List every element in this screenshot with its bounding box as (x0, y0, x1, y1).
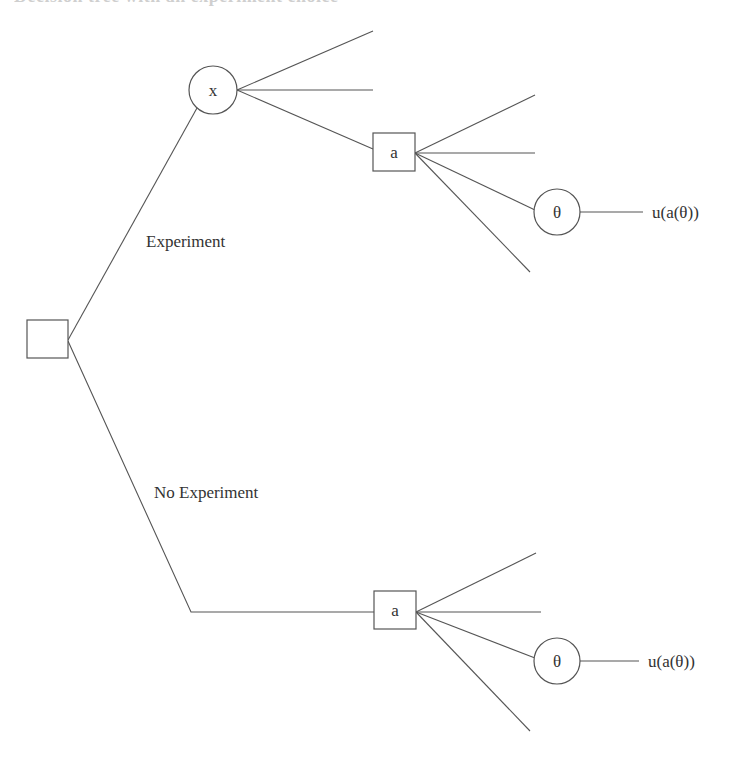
edge-action-top-4 (415, 153, 530, 272)
action-decision-node-experiment-label: a (390, 143, 398, 162)
decision-tree-diagram: x a θ a θ u(a(θ)) u(a(θ)) Experiment No … (0, 0, 733, 760)
edge-action-bottom-4 (416, 612, 530, 731)
utility-label-experiment: u(a(θ)) (652, 203, 699, 222)
edge-observation-outcome-1 (237, 31, 373, 90)
utility-label-no-experiment: u(a(θ)) (648, 652, 695, 671)
edge-action-top-1 (415, 95, 535, 153)
edge-action-top-to-state (415, 153, 535, 210)
edge-no-experiment (68, 341, 374, 612)
branch-label-experiment: Experiment (146, 232, 226, 251)
edge-experiment (68, 108, 197, 340)
edge-observation-to-action (237, 90, 373, 149)
root-decision-node (27, 320, 68, 358)
edge-action-bottom-to-state (416, 612, 535, 658)
branch-label-no-experiment: No Experiment (154, 483, 259, 502)
state-chance-node-experiment-label: θ (553, 203, 561, 222)
state-chance-node-no-experiment-label: θ (553, 652, 561, 671)
action-decision-node-no-experiment-label: a (391, 601, 399, 620)
observation-chance-node-label: x (209, 81, 218, 100)
edge-action-bottom-1 (416, 553, 536, 612)
